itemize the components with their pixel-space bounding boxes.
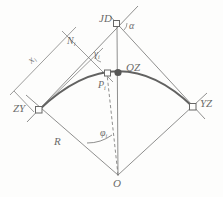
label-alpha: α: [129, 21, 134, 31]
radius-line-o-p-dashed: [107, 74, 118, 175]
label-gamma-i: γi: [94, 49, 100, 59]
label-qz: QZ: [126, 62, 140, 73]
label-p-i: Pi: [98, 80, 106, 90]
label-zy: ZY: [13, 103, 25, 114]
axis-line-o-jd: [117, 26, 118, 176]
label-jd: JD: [99, 13, 112, 24]
label-n-i: Ni: [67, 36, 75, 46]
label-radius: R: [54, 136, 61, 147]
marker-jd: [114, 21, 120, 27]
marker-yz: [190, 104, 197, 111]
circular-curve-arc: [39, 71, 193, 110]
marker-qz: [114, 69, 121, 76]
label-center-o: O: [113, 178, 121, 189]
marker-p-i: [105, 70, 111, 76]
curve-geometry-figure: [0, 0, 223, 197]
marker-zy: [36, 107, 43, 114]
label-phi-i: φi: [100, 128, 107, 138]
angle-arc-alpha: [124, 23, 127, 30]
label-yz: YZ: [200, 98, 212, 109]
